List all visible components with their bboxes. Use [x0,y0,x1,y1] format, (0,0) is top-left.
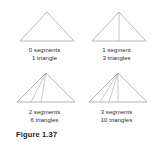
triangle-panel-2-segments: 2 segments 6 triangles [9,68,80,124]
triangle-panel-3-segments: 3 segments 10 triangles [81,68,152,124]
segments-label: 1 segment [81,47,152,55]
triangles-label: 6 triangles [9,117,80,125]
panel-caption: 2 segments 6 triangles [9,109,80,124]
triangle-outline [17,73,75,102]
figure-caption: Figure 1.37 [16,130,57,139]
triangles-label: 3 triangles [81,55,152,63]
triangle-diagram-2-cevians [9,68,80,108]
triangle-diagram-3-cevians [81,68,152,108]
triangle-panel-0-segments: 0 segments 1 triangle [9,6,80,62]
panel-caption: 0 segments 1 triangle [9,47,80,62]
triangle-diagram-1-cevian [81,6,152,46]
segments-label: 3 segments [81,109,152,117]
triangles-label: 10 triangles [81,117,152,125]
cevian-line [100,73,118,102]
triangle-diagram-0-cevians [9,6,80,46]
segments-label: 2 segments [9,109,80,117]
segments-label: 0 segments [9,47,80,55]
triangles-label: 1 triangle [9,55,80,63]
panel-caption: 3 segments 10 triangles [81,109,152,124]
triangle-panel-1-segment: 1 segment 3 triangles [81,6,152,62]
triangle-outline [20,12,74,41]
figure-1-37: 0 segments 1 triangle 1 segment 3 triang… [0,0,162,158]
panel-caption: 1 segment 3 triangles [81,47,152,62]
